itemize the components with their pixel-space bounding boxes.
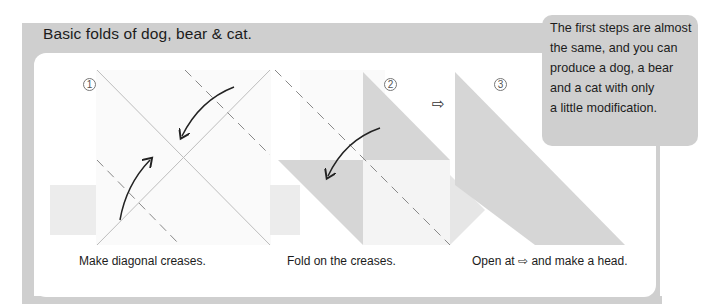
- diagram-step-1: [50, 70, 280, 245]
- caption-step-2: Fold on the creases.: [287, 254, 396, 268]
- open-arrow-icon: ⇨: [432, 95, 445, 113]
- diagram-step-3: [455, 72, 625, 245]
- diagram-step-2: [270, 70, 485, 245]
- caption-step-1: Make diagonal creases.: [79, 254, 206, 268]
- step-number-1: 1: [83, 78, 96, 91]
- step-number-3: 3: [494, 78, 507, 91]
- step-number-2: 2: [384, 78, 397, 91]
- caption-step-3: Open at ⇨ and make a head.: [472, 254, 628, 268]
